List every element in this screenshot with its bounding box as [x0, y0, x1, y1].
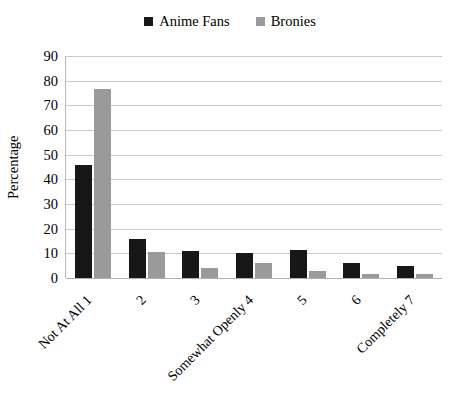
x-axis-label-cell: 2 [119, 280, 173, 400]
bar-chart: Anime Fans Bronies Percentage 0102030405… [0, 0, 460, 405]
x-axis-labels: Not At All 123Somewhat Openly 456Complet… [65, 280, 442, 400]
y-axis-tick-label: 0 [51, 271, 58, 286]
plot-area-wrapper: 0102030405060708090 [65, 56, 442, 278]
y-axis-tick-label: 40 [44, 172, 59, 187]
bar-group [388, 56, 442, 278]
bar [129, 239, 146, 278]
bar [236, 253, 253, 278]
y-axis-tick-label: 80 [44, 73, 59, 88]
y-axis-tick-label: 70 [44, 98, 59, 113]
bar-group [120, 56, 174, 278]
y-axis-tick-label: 30 [44, 197, 59, 212]
bar-group [281, 56, 335, 278]
x-axis-label-cell: Somewhat Openly 4 [227, 280, 281, 400]
bar [290, 250, 307, 278]
x-axis-tick-label: Not At All 1 [36, 286, 102, 352]
y-axis-title: Percentage [4, 56, 22, 278]
y-axis-tick-label: 60 [44, 123, 59, 138]
legend-entry-anime-fans: Anime Fans [144, 14, 229, 29]
bar-group [66, 56, 120, 278]
bar [94, 89, 111, 278]
legend-swatch-icon-bronies [256, 17, 265, 26]
bar [201, 268, 218, 278]
x-axis-tick-label: 3 [188, 286, 210, 308]
bar [75, 165, 92, 278]
chart-legend: Anime Fans Bronies [0, 14, 460, 29]
legend-entry-bronies: Bronies [256, 14, 316, 29]
y-axis-tick-label: 20 [44, 221, 59, 236]
x-axis-tick-label: 5 [295, 286, 317, 308]
x-axis-tick-label: 6 [349, 286, 371, 308]
plot-area [65, 56, 442, 278]
bar-group [227, 56, 281, 278]
bar [182, 251, 199, 278]
legend-label-bronies: Bronies [271, 14, 316, 29]
legend-swatch-icon-anime-fans [144, 17, 153, 26]
bar [397, 266, 414, 278]
x-axis-tick-label: 2 [134, 286, 156, 308]
bar [343, 263, 360, 278]
x-axis-label-cell: 5 [280, 280, 334, 400]
bar [148, 252, 165, 278]
x-axis-label-cell: Completely 7 [388, 280, 442, 400]
y-axis-title-label: Percentage [6, 135, 21, 199]
bar-groups [66, 56, 442, 278]
y-axis-tick-label: 90 [44, 49, 59, 64]
bar [309, 271, 326, 278]
y-axis-tick-label: 50 [44, 147, 59, 162]
bar [362, 274, 379, 278]
gridline [66, 278, 442, 279]
bar [255, 263, 272, 278]
y-axis-tick-label: 10 [44, 246, 59, 261]
legend-label-anime-fans: Anime Fans [159, 14, 229, 29]
bar-group [335, 56, 389, 278]
bar-group [173, 56, 227, 278]
bar [416, 274, 433, 278]
x-axis-label-cell: Not At All 1 [65, 280, 119, 400]
